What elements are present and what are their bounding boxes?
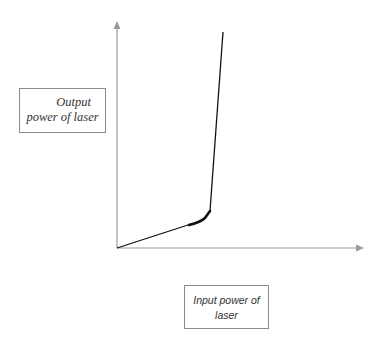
laser-characteristic-curve (117, 32, 223, 248)
y-axis-label-line2: power of laser (26, 110, 98, 124)
x-axis-label-line1: Input power of (185, 293, 268, 308)
y-axis (114, 21, 121, 248)
y-axis-label-line1: Output (20, 95, 105, 110)
threshold-knee (189, 211, 210, 225)
x-axis-arrow-icon (356, 245, 364, 252)
x-axis-label-line2: laser (185, 308, 268, 323)
x-axis (117, 245, 364, 252)
y-axis-label-box: Output power of laser (19, 88, 106, 133)
y-axis-arrow-icon (114, 21, 121, 29)
x-axis-label-box: Input power of laser (184, 285, 269, 329)
